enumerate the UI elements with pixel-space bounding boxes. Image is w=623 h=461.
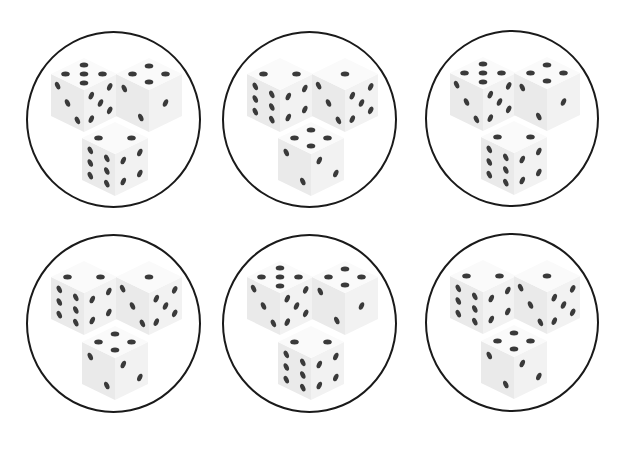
die-left-icon bbox=[450, 260, 516, 334]
die-bottom-icon bbox=[278, 326, 344, 400]
die-left-icon bbox=[51, 261, 117, 335]
die-bottom-icon bbox=[481, 121, 547, 195]
dice-circle bbox=[26, 31, 201, 208]
dice-circle bbox=[26, 234, 201, 413]
die-bottom-icon bbox=[82, 326, 148, 400]
die-bottom-icon bbox=[278, 122, 344, 196]
die-right-icon bbox=[312, 261, 378, 335]
dice-circle bbox=[222, 31, 397, 208]
die-right-icon bbox=[116, 261, 182, 335]
dice-circle bbox=[425, 233, 599, 412]
die-left-icon bbox=[247, 261, 313, 335]
die-right-icon bbox=[514, 260, 580, 334]
die-bottom-icon bbox=[82, 122, 148, 196]
die-bottom-icon bbox=[481, 325, 547, 399]
dice-circle bbox=[425, 30, 599, 207]
dice-circle bbox=[222, 234, 397, 413]
